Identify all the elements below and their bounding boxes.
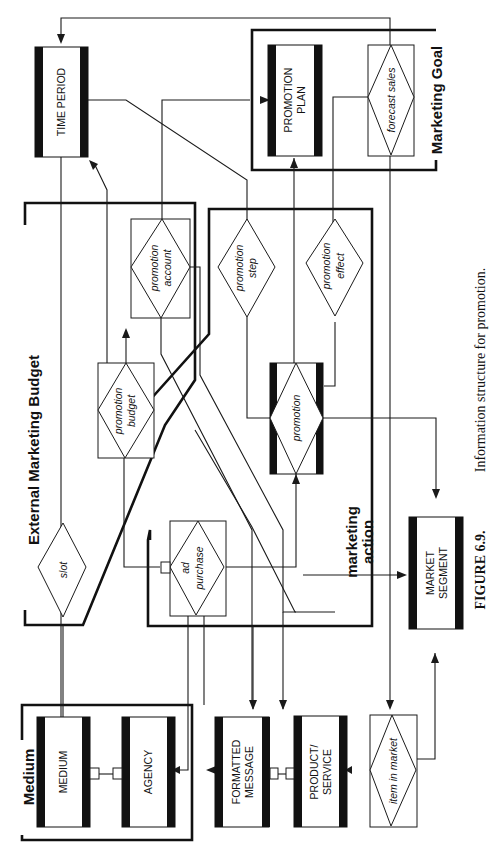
entity-market-segment-label-2: SEGMENT bbox=[437, 546, 449, 599]
relationship-promotion-effect-label-2: effect bbox=[334, 252, 346, 279]
entity-agency-label: AGENCY bbox=[142, 750, 154, 794]
entity-formatted-message-label-1: FORMATTED bbox=[230, 739, 242, 804]
entity-market-segment[interactable]: MARKET SEGMENT bbox=[409, 517, 463, 629]
entity-formatted-message[interactable]: FORMATTED MESSAGE bbox=[215, 717, 270, 827]
entity-promotion-plan-label-1: PROMOTION bbox=[282, 68, 294, 133]
er-diagram: TIME PERIOD PROMOTION PLAN MEDIUM AGENCY… bbox=[0, 0, 489, 858]
relationship-promotion-account-label-1: promotion bbox=[148, 245, 160, 293]
relationship-promotion-account-label-2: account bbox=[161, 249, 173, 287]
relationship-promotion-effect[interactable]: promotion effect bbox=[306, 219, 363, 316]
figure-caption: FIGURE 6.9. Information structure for pr… bbox=[473, 268, 488, 610]
entity-product-service-label-2: SERVICE bbox=[321, 749, 333, 795]
entity-promotion-plan[interactable]: PROMOTION PLAN bbox=[268, 45, 322, 156]
relationship-promotion-budget[interactable]: promotion budget bbox=[98, 363, 154, 458]
relationship-promotion-effect-label-1: promotion bbox=[320, 243, 332, 291]
entity-market-segment-label-1: MARKET bbox=[424, 551, 436, 595]
relationship-item-in-market[interactable]: item in market bbox=[370, 715, 417, 827]
group-marketing-goal-label: Marketing Goal bbox=[428, 46, 445, 154]
entity-formatted-message-label-2: MESSAGE bbox=[243, 746, 255, 798]
relationship-item-in-market-label: item in market bbox=[387, 737, 399, 804]
figure-caption-label: FIGURE 6.9. bbox=[473, 531, 488, 610]
relationship-promotion-account[interactable]: promotion account bbox=[131, 219, 190, 318]
entity-medium[interactable]: MEDIUM bbox=[37, 717, 90, 827]
relationship-forecast-sales-label: forecast sales bbox=[385, 67, 397, 133]
relationship-ad-purchase-label-1: ad bbox=[179, 561, 191, 574]
group-marketing-action-label-1: marketing bbox=[343, 506, 360, 578]
relationship-promotion-step[interactable]: promotion step bbox=[218, 219, 275, 317]
entity-product-service[interactable]: PRODUCT/ SERVICE bbox=[294, 716, 347, 827]
relationship-promotion-step-label-2: step bbox=[246, 258, 258, 278]
entity-medium-label: MEDIUM bbox=[57, 751, 69, 794]
relationship-promotion-budget-label-2: budget bbox=[125, 394, 137, 427]
group-external-marketing-budget-label: External Marketing Budget bbox=[25, 355, 42, 545]
relationship-ad-purchase[interactable]: ad purchase bbox=[161, 521, 226, 616]
entity-time-period-label: TIME PERIOD bbox=[55, 67, 67, 136]
entity-promotion[interactable]: promotion bbox=[270, 363, 323, 474]
relationship-promotion-budget-label-1: promotion bbox=[112, 388, 124, 436]
group-marketing-action-label-2: action bbox=[359, 520, 376, 564]
entity-promotion-label: promotion bbox=[290, 395, 302, 443]
relationship-forecast-sales[interactable]: forecast sales bbox=[368, 45, 414, 156]
group-medium-label: Medium bbox=[20, 749, 37, 806]
entity-time-period[interactable]: TIME PERIOD bbox=[35, 47, 88, 157]
relationship-slot-label: slot bbox=[57, 561, 69, 578]
figure-caption-text: Information structure for promotion. bbox=[473, 268, 488, 473]
relationship-ad-purchase-label-2: purchase bbox=[193, 546, 205, 590]
relationship-promotion-step-label-1: promotion bbox=[233, 245, 245, 293]
entity-product-service-label-1: PRODUCT/ bbox=[308, 745, 320, 800]
entity-promotion-plan-label-2: PLAN bbox=[295, 86, 307, 113]
entity-agency[interactable]: AGENCY bbox=[122, 717, 175, 827]
relationship-slot[interactable]: slot bbox=[38, 523, 86, 617]
